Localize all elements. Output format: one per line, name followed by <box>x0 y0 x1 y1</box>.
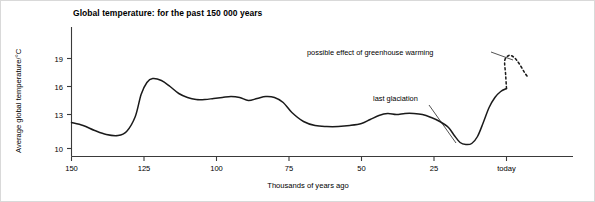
y-tick-label-16: 16 <box>55 83 63 92</box>
y-axis-ticks: 19 16 13 10 <box>55 55 72 154</box>
chart-figure: Global temperature: for the past 150 000… <box>0 0 595 202</box>
annotation-last-glaciation-leader <box>429 105 456 143</box>
x-tick-label-150: 150 <box>65 164 78 173</box>
temperature-line-chart: Global temperature: for the past 150 000… <box>1 1 595 202</box>
annotation-last-glaciation-label: last glaciation <box>373 94 418 103</box>
x-axis-title: Thousands of years ago <box>267 181 348 190</box>
y-tick-label-13: 13 <box>55 111 63 120</box>
y-tick-label-19: 19 <box>55 55 63 64</box>
x-tick-label-25: 25 <box>430 164 438 173</box>
x-tick-label-75: 75 <box>285 164 293 173</box>
temperature-curve-projected <box>505 55 528 88</box>
annotation-greenhouse-warming-leader <box>491 52 513 60</box>
x-tick-label-125: 125 <box>138 164 151 173</box>
chart-title: Global temperature: for the past 150 000… <box>73 8 263 18</box>
temperature-curve-observed <box>72 78 507 144</box>
x-axis-ticks: 150 125 100 75 50 25 today <box>65 157 516 174</box>
x-tick-label-100: 100 <box>210 164 223 173</box>
x-tick-label-today: today <box>497 164 516 173</box>
y-tick-label-10: 10 <box>55 145 63 154</box>
x-tick-label-50: 50 <box>357 164 365 173</box>
annotation-greenhouse-warming-label: possible effect of greenhouse warming <box>307 48 433 57</box>
y-axis-title: Average global temperature/°C <box>14 48 23 153</box>
